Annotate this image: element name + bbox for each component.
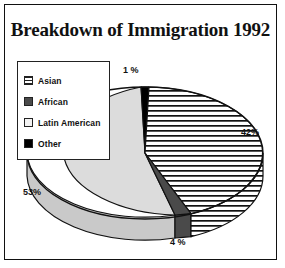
data-label-other: 1 %	[123, 65, 139, 75]
data-label-latin-american: 53%	[23, 187, 41, 197]
legend-label-latin-american: Latin American	[38, 118, 101, 128]
dark-gray-swatch-icon	[24, 97, 33, 106]
legend-label-asian: Asian	[38, 76, 62, 86]
legend-label-other: Other	[38, 139, 61, 149]
legend-label-african: African	[38, 97, 68, 107]
data-label-african: 4 %	[170, 237, 186, 247]
legend-item-latin-american: Latin American	[24, 112, 109, 133]
chart-frame: Breakdown of Immigration 1992	[4, 4, 277, 260]
data-label-asian: 42%	[241, 127, 259, 137]
legend-item-asian: Asian	[24, 70, 109, 91]
light-gray-swatch-icon	[24, 118, 33, 127]
legend-item-african: African	[24, 91, 109, 112]
chart-legend: Asian African Latin American Other	[17, 61, 110, 160]
black-swatch-icon	[24, 139, 33, 148]
legend-item-other: Other	[24, 133, 109, 154]
hatch-swatch-icon	[24, 76, 33, 85]
